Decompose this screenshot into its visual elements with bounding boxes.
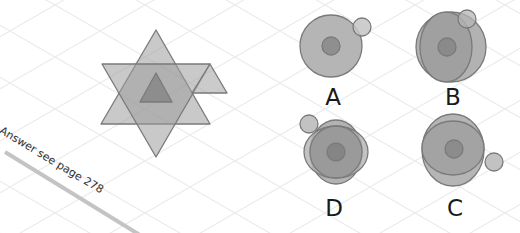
option-label-b[interactable]: B <box>445 86 461 109</box>
option-label-d[interactable]: D <box>325 197 343 220</box>
center-dot <box>327 143 345 161</box>
small-circle <box>485 153 503 171</box>
option-label-a[interactable]: A <box>325 86 341 109</box>
center-dot <box>438 38 456 56</box>
center-dot <box>322 37 340 55</box>
option-label-c[interactable]: C <box>447 197 463 220</box>
small-circle <box>458 10 476 28</box>
small-circle <box>300 115 318 133</box>
small-circle <box>353 18 371 36</box>
center-dot <box>445 140 463 158</box>
